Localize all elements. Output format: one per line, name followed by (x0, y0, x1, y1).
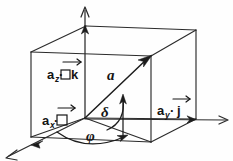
vector-diagram-figure: a z · k a x · a y · j a δ (0, 0, 233, 161)
label-vector-a: a (107, 67, 115, 83)
label-component-y: a y · j (157, 96, 190, 120)
box-edge-top-right-receding (151, 30, 196, 56)
label-ay-dot: · (170, 103, 174, 118)
label-ax-base: a (42, 113, 50, 128)
box-edge-front-top (31, 52, 151, 56)
label-component-z: a z · k (47, 59, 81, 84)
label-angle-delta: δ (101, 104, 109, 120)
main-vector-a (85, 55, 152, 118)
box-edge-top-back (86, 26, 196, 30)
label-angle-phi: φ (86, 128, 95, 144)
label-ay-base: a (157, 103, 165, 118)
label-component-x: a x · (42, 105, 75, 130)
vector-a-line (85, 58, 148, 118)
box-edge-top-left-receding (31, 26, 86, 52)
label-az-unit: k (71, 67, 79, 82)
label-ay-unit: j (176, 103, 181, 118)
label-az-base: a (47, 67, 55, 82)
vector-diagram-canvas: a z · k a x · a y · j a δ (0, 0, 233, 161)
label-ax-glyph-box (57, 115, 67, 125)
